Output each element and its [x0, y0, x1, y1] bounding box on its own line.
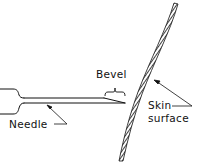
bevel-label: Bevel	[96, 68, 127, 80]
skin-label-line1: Skin	[148, 99, 172, 111]
skin-label-line2: surface	[148, 112, 189, 124]
needle-hub-top	[0, 89, 24, 98]
needle-skin-diagram: Bevel Needle Skin surface	[0, 0, 199, 164]
needle-label: Needle	[9, 118, 48, 130]
needle-bevel-edge	[104, 98, 125, 103]
skin-surface	[119, 3, 178, 161]
needle-leader-arrow	[47, 105, 67, 124]
bevel-bracket	[105, 88, 125, 96]
needle-hub-bottom	[0, 103, 24, 114]
